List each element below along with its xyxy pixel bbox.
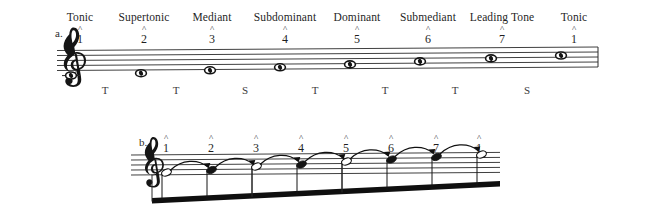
staff-line-b-1 <box>131 172 500 175</box>
staff-line-a-3 <box>57 57 598 61</box>
staff-line-a-5 <box>57 47 598 51</box>
staff-line-a-2 <box>57 62 598 66</box>
staff-line-a-4 <box>57 52 598 56</box>
beam <box>152 181 500 204</box>
note-a-2 <box>136 70 147 77</box>
staff-system-a <box>57 28 598 87</box>
figure-canvas: a. Tonic Supertonic Mediant Subdominant … <box>0 0 654 221</box>
note-a-4 <box>275 64 286 71</box>
curved-arrow-5 <box>350 150 390 159</box>
curved-arrow-3 <box>260 155 300 164</box>
music-engraving <box>0 0 654 221</box>
note-a-1 <box>66 72 77 79</box>
note-a-3 <box>205 67 216 74</box>
staff-line-b-3 <box>131 162 500 165</box>
staff-line-b-2 <box>131 167 500 170</box>
staff-line-b-4 <box>131 157 500 160</box>
staff-system-b <box>131 137 500 204</box>
curved-arrow-6 <box>395 147 435 156</box>
note-a-7 <box>486 55 497 62</box>
note-a-5 <box>345 61 356 68</box>
note-a-6 <box>415 58 426 65</box>
treble-clef-icon <box>145 137 164 187</box>
note-a-8 <box>556 52 567 59</box>
